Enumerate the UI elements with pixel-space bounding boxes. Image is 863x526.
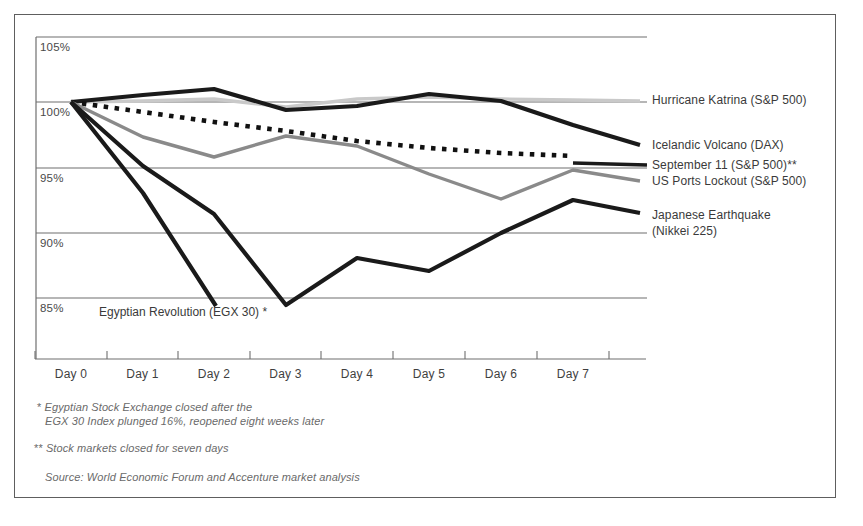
series-line-icelandic-volcano [71, 89, 640, 145]
series-label-japanese-earthquake: Japanese Earthquake [652, 208, 771, 223]
x-axis-ticks [35, 351, 609, 359]
gridlines [36, 37, 647, 298]
x-tick-label-day-1: Day 1 [107, 367, 178, 381]
series-label-hurricane-katrina: Hurricane Katrina (S&P 500) [652, 93, 807, 108]
footnote-1-line-1: Egyptian Stock Exchange closed after the [45, 401, 253, 413]
source-note: Source: World Economic Forum and Accentu… [45, 470, 360, 484]
series-label-september-11: September 11 (S&P 500)** [652, 158, 797, 173]
x-tick-label-day-4: Day 4 [321, 367, 393, 381]
series-label-japanese-earthquake-index: (Nikkei 225) [652, 224, 717, 239]
x-tick-label-day-2: Day 2 [178, 367, 250, 381]
series-line-japanese-earthquake [71, 102, 640, 305]
y-tick-label-100: 100% [40, 106, 70, 118]
footnote-1-line-2: EGX 30 Index plunged 16%, reopened eight… [45, 414, 324, 428]
series-line-us-ports-lockout [71, 102, 640, 199]
series-label-icelandic-volcano: Icelandic Volcano (DAX) [652, 138, 784, 153]
y-tick-label-85: 85% [40, 302, 64, 314]
x-tick-label-day-0: Day 0 [35, 367, 107, 381]
x-axis [35, 351, 646, 359]
y-tick-label-105: 105% [40, 41, 70, 53]
series-line-september-11 [71, 102, 573, 156]
series-line-egyptian-revolution [71, 102, 216, 306]
chart-figure-frame: 105% 100% 95% 90% 85% Day 0 Day 1 Day 2 … [14, 14, 836, 498]
y-tick-label-90: 90% [40, 237, 64, 249]
footnote-2-marker: ** [34, 442, 43, 454]
x-tick-label-day-7: Day 7 [537, 367, 609, 381]
annotation-egyptian-revolution: Egyptian Revolution (EGX 30) * [99, 305, 267, 319]
x-tick-label-day-3: Day 3 [250, 367, 321, 381]
x-tick-label-day-6: Day 6 [465, 367, 537, 381]
series-label-us-ports-lockout: US Ports Lockout (S&P 500) [652, 174, 806, 189]
series-leader-september-11 [573, 163, 647, 165]
y-tick-label-95: 95% [40, 172, 64, 184]
footnote-1-marker: * [37, 401, 41, 413]
footnote-2-line-1: Stock markets closed for seven days [46, 442, 229, 454]
x-tick-label-day-5: Day 5 [393, 367, 465, 381]
